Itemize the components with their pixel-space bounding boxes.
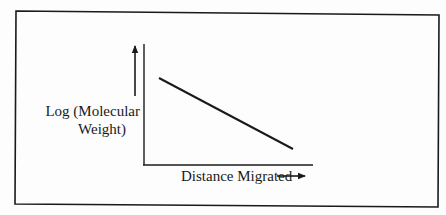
data-line [159, 78, 293, 149]
y-axis-label-line1: Log (Molecular [45, 103, 140, 120]
x-axis-label: Distance Migrated [181, 168, 293, 184]
y-axis-label-line2: Weight) [78, 121, 126, 138]
figure: Log (Molecular Weight) Distance Migrated [0, 0, 446, 215]
diagram-canvas: Log (Molecular Weight) Distance Migrated [0, 0, 446, 215]
